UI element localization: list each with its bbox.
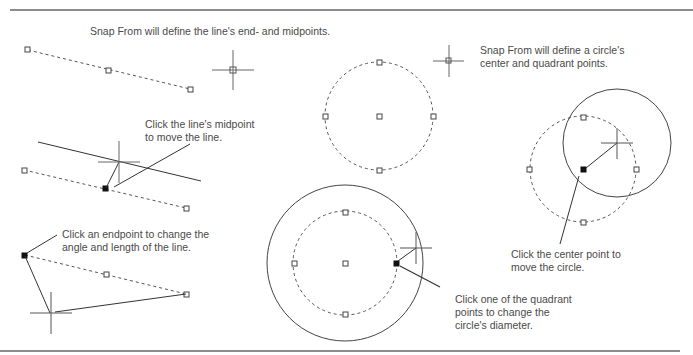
quadrant-caption-line1: Click one of the quadrant: [455, 293, 572, 306]
quadrant-caption-line2: points to change the: [455, 306, 550, 319]
quadrant-caption-line3: circle's diameter.: [455, 319, 533, 332]
line-midpoint-move: [22, 142, 201, 211]
crosshair-cursor-icon: [98, 141, 140, 183]
snap-line-caption: Snap From will define the line's end- an…: [90, 25, 330, 38]
crosshair-cursor-icon: [212, 50, 254, 90]
center-caption-line1: Click the center point to: [511, 248, 621, 261]
snap-circle-caption-line1: Snap From will define a circle's: [480, 44, 624, 57]
midpoint-caption-line1: Click the line's midpoint: [145, 118, 254, 131]
center-caption-line2: move the circle.: [511, 261, 585, 274]
circle-snap-points: [323, 60, 436, 173]
circle-quadrant-resize: [267, 185, 440, 341]
crosshair-cursor-icon: [30, 292, 72, 334]
circle-center-move: [527, 89, 671, 244]
line-snap-points: [25, 47, 193, 92]
crosshair-cursor-icon: [601, 128, 633, 159]
snap-circle-caption-line2: center and quadrant points.: [480, 57, 608, 70]
crosshair-cursor-icon: [400, 232, 432, 264]
midpoint-caption-line2: to move the line.: [145, 131, 222, 144]
crosshair-cursor-icon: [433, 45, 464, 77]
endpoint-caption-line1: Click an endpoint to change the: [62, 228, 209, 241]
endpoint-caption-line2: angle and length of the line.: [62, 241, 191, 254]
